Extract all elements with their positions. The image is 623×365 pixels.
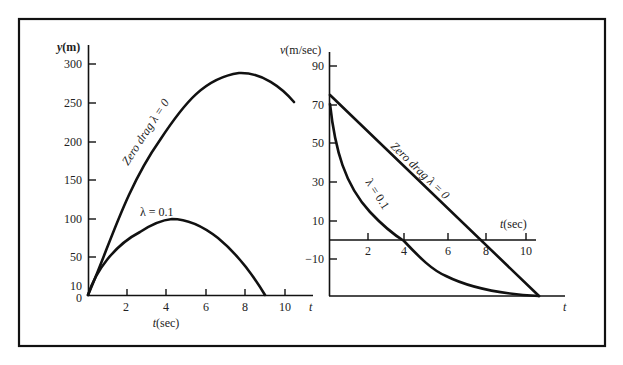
right-ttick-10: 10 <box>520 244 532 258</box>
right-v-tick-labels: 90 70 50 30 10 −10 <box>305 59 324 266</box>
right-axis-end-label: t <box>563 300 567 314</box>
right-vtick-neg10: −10 <box>305 252 324 266</box>
right-ttick-6: 6 <box>445 244 451 258</box>
right-chart-velocity: 90 70 50 30 10 −10 2 4 6 8 10 v(m/sec) t… <box>280 43 567 314</box>
left-x-tick-labels: 2 4 6 8 10 <box>123 300 291 314</box>
right-vtick-70: 70 <box>312 98 324 112</box>
right-vtick-30: 30 <box>312 175 324 189</box>
left-ytick-0: 0 <box>76 291 82 305</box>
left-y-tick-labels: 300 250 200 150 100 50 10 0 <box>64 57 82 305</box>
right-drag-label: λ = 0.1 <box>362 176 392 212</box>
left-x-axis-title: t(sec) <box>153 316 180 330</box>
right-zero-drag-label: Zero drag λ = 0 <box>388 139 453 202</box>
right-t-tick-labels: 2 4 6 8 10 <box>365 244 532 258</box>
left-ytick-250: 250 <box>64 96 82 110</box>
left-xtick-10: 10 <box>279 300 291 314</box>
left-y-axis-title: y(m) <box>55 40 80 54</box>
left-ytick-100: 100 <box>64 212 82 226</box>
right-vtick-10: 10 <box>312 214 324 228</box>
right-t-ticks <box>368 233 526 240</box>
right-v-axis-title: v(m/sec) <box>280 43 321 57</box>
left-ytick-150: 150 <box>64 173 82 187</box>
left-xtick-8: 8 <box>242 300 248 314</box>
right-vtick-90: 90 <box>312 59 324 73</box>
left-xtick-4: 4 <box>163 300 169 314</box>
left-ytick-50: 50 <box>70 250 82 264</box>
right-ttick-2: 2 <box>365 244 371 258</box>
left-x-axis-end-label: t <box>309 300 313 314</box>
left-xtick-2: 2 <box>123 300 129 314</box>
right-zero-drag-line <box>330 95 539 296</box>
left-ytick-200: 200 <box>64 135 82 149</box>
right-t-axis-title: t(sec) <box>500 217 527 231</box>
left-ytick-300: 300 <box>64 57 82 71</box>
left-chart-position: 300 250 200 150 100 50 10 0 2 4 6 8 10 t… <box>55 40 313 330</box>
right-vtick-50: 50 <box>312 136 324 150</box>
right-ttick-4: 4 <box>401 244 407 258</box>
figure: 300 250 200 150 100 50 10 0 2 4 6 8 10 t… <box>0 0 623 365</box>
left-zero-drag-curve <box>88 73 294 295</box>
left-xtick-6: 6 <box>203 300 209 314</box>
left-drag-label: λ = 0.1 <box>140 205 174 219</box>
